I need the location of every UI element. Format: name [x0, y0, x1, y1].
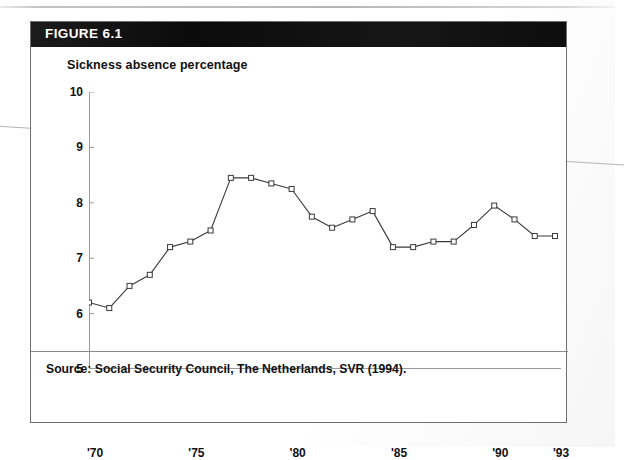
y-axis-tick-label: 10	[61, 85, 83, 99]
y-axis-tick-label: 8	[61, 196, 83, 210]
y-axis-tick-label: 6	[61, 307, 83, 321]
chart-title: Sickness absence percentage	[67, 58, 248, 72]
y-axis-tick-label: 9	[61, 140, 83, 154]
y-axis-tick-label: 7	[61, 251, 83, 265]
x-axis-tick-label: '70	[87, 446, 103, 460]
figure-number-label: FIGURE 6.1	[45, 26, 123, 41]
x-axis-tick-label: '75	[188, 446, 204, 460]
source-caption: Source: Social Security Council, The Net…	[46, 362, 406, 376]
x-axis-tick-label: '85	[391, 446, 407, 460]
caption-divider	[31, 351, 568, 352]
figure-box: FIGURE 6.1 Sickness absence percentage 5…	[30, 21, 567, 423]
plot-area: 5678910'70'75'80'85'90'93	[89, 92, 561, 369]
x-axis-tick-label: '93	[553, 446, 569, 460]
x-axis-tick-label: '90	[492, 446, 508, 460]
x-axis-tick-label: '80	[290, 446, 306, 460]
scanned-page-top-rule	[0, 6, 615, 8]
figure-header-bar: FIGURE 6.1	[31, 22, 566, 47]
line-chart-svg	[89, 92, 561, 369]
